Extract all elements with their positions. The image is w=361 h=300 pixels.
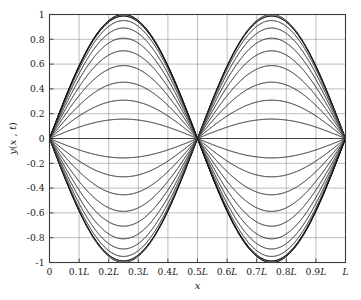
y-tick-label: -0.6 [27, 207, 45, 218]
y-tick-label: 0.8 [30, 34, 45, 45]
x-tick-label: 0 [47, 266, 53, 277]
y-tick-label: 0.4 [30, 83, 45, 94]
x-tick-label: 0.3L [128, 266, 149, 277]
x-tick-label: 0.7L [246, 266, 267, 277]
y-tick-label: 1 [39, 9, 45, 20]
x-tick-label: 0.8L [276, 266, 297, 277]
chart-figure: 00.1L0.2L0.3L0.4L0.5L0.6L0.7L0.8L0.9LL10… [0, 0, 361, 300]
standing-wave-chart: 00.1L0.2L0.3L0.4L0.5L0.6L0.7L0.8L0.9LL10… [0, 0, 361, 300]
y-tick-label: -0.2 [27, 158, 45, 169]
x-axis-title: x [195, 280, 201, 291]
x-tick-label: 0.5L [187, 266, 208, 277]
x-tick-label: 0.1L [69, 266, 90, 277]
x-tick-label: 0.9L [306, 266, 327, 277]
y-tick-label: 0 [39, 133, 45, 144]
y-axis-title: y(x , t) [7, 122, 18, 156]
x-tick-label: L [341, 266, 348, 277]
y-tick-label: -0.8 [27, 232, 45, 243]
x-tick-label: 0.4L [158, 266, 179, 277]
x-tick-label: 0.2L [98, 266, 119, 277]
y-tick-label: -0.4 [27, 182, 45, 193]
y-tick-label: 0.6 [30, 58, 45, 69]
x-tick-label: 0.6L [217, 266, 238, 277]
y-tick-label: -1 [36, 257, 45, 268]
y-tick-label: 0.2 [30, 108, 45, 119]
